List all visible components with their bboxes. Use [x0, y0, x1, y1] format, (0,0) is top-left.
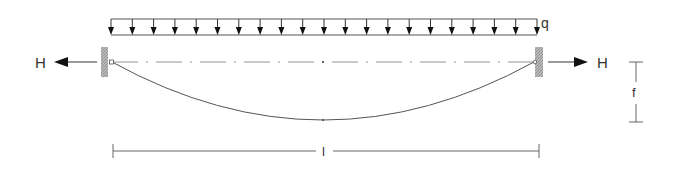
load-arrow-down-icon [151, 27, 157, 35]
load-arrow-down-icon [278, 27, 284, 35]
load-arrow-down-icon [215, 27, 221, 35]
load-arrow-down-icon [257, 27, 263, 35]
span-label-l: l [322, 144, 325, 159]
left-support-hatch [101, 47, 108, 77]
load-arrow-down-icon [321, 27, 327, 35]
sag-label-f: f [632, 85, 636, 100]
right-force-arrowhead-icon [574, 57, 588, 67]
load-arrow-down-icon [534, 27, 540, 35]
left-force-label-h: H [35, 54, 46, 71]
cable-curve [112, 62, 534, 120]
cable-diagram: q H H f l [0, 0, 679, 169]
load-arrow-down-icon [193, 27, 199, 35]
right-force-label-h: H [597, 54, 608, 71]
load-arrow-down-icon [364, 27, 370, 35]
load-arrow-down-icon [236, 27, 242, 35]
load-label-q: q [541, 15, 549, 31]
distributed-load [108, 19, 540, 35]
load-arrow-down-icon [108, 27, 114, 35]
load-arrow-down-icon [385, 27, 391, 35]
left-force-arrowhead-icon [54, 57, 68, 67]
cable-lowest-point [322, 119, 324, 121]
load-arrow-down-icon [513, 27, 519, 35]
load-arrow-down-icon [491, 27, 497, 35]
load-arrow-down-icon [449, 27, 455, 35]
load-arrow-down-icon [342, 27, 348, 35]
load-arrow-down-icon [428, 27, 434, 35]
load-arrow-down-icon [406, 27, 412, 35]
load-arrow-down-icon [300, 27, 306, 35]
chord-midpoint [322, 61, 324, 63]
right-pin [533, 60, 537, 64]
load-arrow-down-icon [129, 27, 135, 35]
load-arrow-down-icon [172, 27, 178, 35]
load-arrow-down-icon [470, 27, 476, 35]
span-dimension [113, 144, 539, 158]
left-pin [110, 60, 114, 64]
